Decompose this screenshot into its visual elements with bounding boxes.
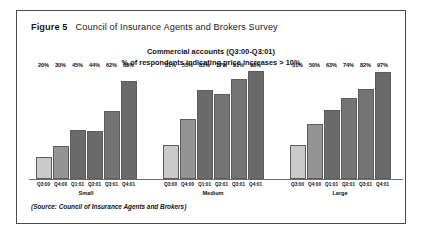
bar-slot: 30% xyxy=(52,69,69,179)
tick-label-row: Q3:00Q4:00Q1:01Q2:01Q3:01Q4:01 xyxy=(35,182,137,187)
bar xyxy=(70,130,86,180)
bar-value-label: 74% xyxy=(343,62,354,68)
x-tick-label: Q2:01 xyxy=(86,182,103,187)
x-tick-label: Q3:00 xyxy=(35,182,52,187)
figure-title-text: Council of Insurance Agents and Brokers … xyxy=(76,22,278,32)
x-tick-label: Q3:01 xyxy=(230,182,247,187)
chart-plot-area: 20%30%45%44%62%89%31%55%81%77%91%98%31%5… xyxy=(35,69,391,179)
tick-label-row: Q3:00Q4:00Q1:01Q2:01Q3:01Q4:01 xyxy=(289,182,391,187)
bar xyxy=(214,94,230,179)
bar-value-label: 45% xyxy=(72,62,83,68)
figure-title: Figure 5Council of Insurance Agents and … xyxy=(31,22,278,32)
bar xyxy=(358,89,374,179)
bar-value-label: 63% xyxy=(326,62,337,68)
bar xyxy=(180,119,196,180)
bar-value-label: 62% xyxy=(106,62,117,68)
bar-slot: 62% xyxy=(103,69,120,179)
bar-value-label: 20% xyxy=(38,62,49,68)
bar-value-label: 82% xyxy=(360,62,371,68)
bar-slot: 81% xyxy=(196,69,213,179)
bar xyxy=(341,98,357,179)
bar-slot: 31% xyxy=(162,69,179,179)
bar xyxy=(87,131,103,179)
source-note: (Source: Council of Insurance Agents and… xyxy=(31,203,186,210)
bar-slot: 45% xyxy=(69,69,86,179)
bar-value-label: 31% xyxy=(165,62,176,68)
x-tick-label: Q4:01 xyxy=(374,182,391,187)
bar-value-label: 44% xyxy=(89,62,100,68)
tick-label-row: Q3:00Q4:00Q1:01Q2:01Q3:01Q4:01 xyxy=(162,182,264,187)
bar-value-label: 81% xyxy=(199,62,210,68)
x-tick-label: Q4:01 xyxy=(120,182,137,187)
bar-slot: 97% xyxy=(374,69,391,179)
bar-value-label: 98% xyxy=(250,62,261,68)
bar-group-small: 20%30%45%44%62%89% xyxy=(35,69,137,179)
x-tick-label: Q3:01 xyxy=(357,182,374,187)
bar-value-label: 77% xyxy=(216,62,227,68)
bar xyxy=(248,71,264,179)
bar-slot: 50% xyxy=(306,69,323,179)
bar-value-label: 91% xyxy=(233,62,244,68)
bar-value-label: 50% xyxy=(309,62,320,68)
x-tick-label: Q2:01 xyxy=(213,182,230,187)
bar-slot: 89% xyxy=(120,69,137,179)
x-tick-label: Q3:00 xyxy=(162,182,179,187)
bar xyxy=(53,146,69,179)
bar-value-label: 97% xyxy=(377,62,388,68)
x-tick-label: Q1:01 xyxy=(69,182,86,187)
bar-slot: 20% xyxy=(35,69,52,179)
bar-groups-row: 20%30%45%44%62%89%31%55%81%77%91%98%31%5… xyxy=(35,69,391,179)
x-tick-label: Q4:00 xyxy=(179,182,196,187)
bar xyxy=(36,157,52,179)
x-tick-label: Q3:01 xyxy=(103,182,120,187)
bar-group-medium: 31%55%81%77%91%98% xyxy=(162,69,264,179)
bar-value-label: 55% xyxy=(182,62,193,68)
x-tick-label: Q3:00 xyxy=(289,182,306,187)
x-tick-label: Q1:01 xyxy=(196,182,213,187)
bar xyxy=(290,145,306,179)
bar-group-large: 31%50%63%74%82%97% xyxy=(289,69,391,179)
figure-number: Figure 5 xyxy=(31,22,68,32)
bar-value-label: 89% xyxy=(123,62,134,68)
bar xyxy=(104,111,120,179)
bar-slot: 63% xyxy=(323,69,340,179)
group-label-small: Small xyxy=(35,190,137,196)
bar xyxy=(163,145,179,179)
bar xyxy=(324,110,340,179)
x-tick-label: Q4:01 xyxy=(247,182,264,187)
bar-slot: 31% xyxy=(289,69,306,179)
bar-value-label: 30% xyxy=(55,62,66,68)
group-label-large: Large xyxy=(289,190,391,196)
bar-slot: 91% xyxy=(230,69,247,179)
x-tick-label: Q2:01 xyxy=(340,182,357,187)
bar xyxy=(231,79,247,179)
bar xyxy=(375,72,391,179)
bar xyxy=(307,124,323,179)
chart-subtitle-line-1: Commercial accounts (Q3:00-Q3:01) xyxy=(17,47,405,58)
x-tick-label: Q1:01 xyxy=(323,182,340,187)
bar-slot: 77% xyxy=(213,69,230,179)
x-tick-label: Q4:00 xyxy=(306,182,323,187)
bar xyxy=(121,81,137,179)
x-tick-label: Q4:00 xyxy=(52,182,69,187)
bar-value-label: 31% xyxy=(292,62,303,68)
figure-frame: Figure 5Council of Insurance Agents and … xyxy=(16,10,406,224)
bar xyxy=(197,90,213,179)
x-axis-baseline xyxy=(29,179,403,180)
bar-slot: 82% xyxy=(357,69,374,179)
bar-slot: 55% xyxy=(179,69,196,179)
group-label-medium: Medium xyxy=(162,190,264,196)
bar-slot: 44% xyxy=(86,69,103,179)
bar-slot: 98% xyxy=(247,69,264,179)
bar-slot: 74% xyxy=(340,69,357,179)
